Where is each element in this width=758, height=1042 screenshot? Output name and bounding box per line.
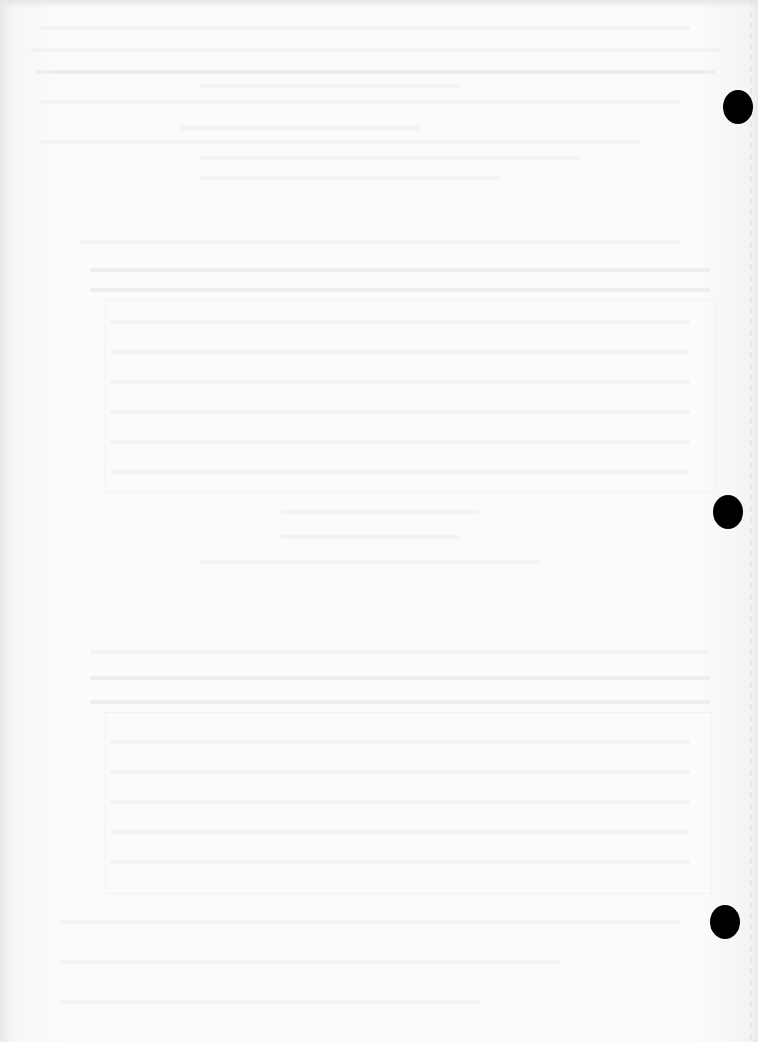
punch-hole-bottom — [710, 905, 740, 939]
punch-hole-top — [723, 90, 753, 124]
page-top-edge-shadow — [0, 0, 758, 8]
scanned-page — [0, 0, 758, 1042]
page-right-edge — [750, 0, 752, 1042]
punch-hole-middle — [713, 495, 743, 529]
